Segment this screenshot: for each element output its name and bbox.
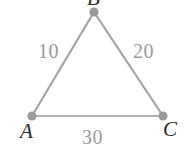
edge-weight-label-ab: 10: [38, 41, 59, 61]
vertex-label-a: A: [20, 121, 33, 142]
vertex-label-c: C: [163, 119, 177, 140]
edge-a-b: [32, 12, 94, 116]
edge-weight-label-ca: 30: [82, 127, 103, 147]
graph-figure: 10 20 30 A B C: [0, 0, 194, 154]
edge-b-c: [94, 12, 163, 116]
vertex-label-b: B: [87, 0, 100, 9]
edge-weight-label-bc: 20: [133, 41, 154, 61]
